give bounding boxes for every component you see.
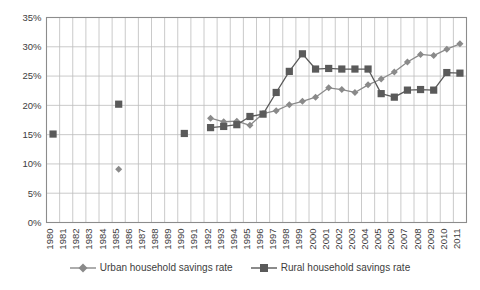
x-tick-label: 2006 — [385, 229, 396, 250]
x-tick-label: 1999 — [293, 229, 304, 250]
data-point-square — [312, 65, 319, 72]
x-tick-label: 2001 — [320, 229, 331, 250]
data-point-square — [299, 50, 306, 57]
data-point-square — [286, 68, 293, 75]
diamond-marker-icon — [70, 262, 96, 274]
y-tick-label: 30% — [22, 41, 42, 52]
data-point-square — [115, 101, 122, 108]
data-point-square — [49, 130, 56, 137]
data-point-diamond — [351, 89, 358, 96]
data-point-square — [417, 86, 424, 93]
data-point-square — [181, 130, 188, 137]
x-tick-label: 1992 — [202, 229, 213, 250]
data-point-diamond — [365, 81, 372, 88]
x-tick-label: 1987 — [136, 229, 147, 250]
x-tick-label: 1991 — [188, 229, 199, 250]
data-point-diamond — [115, 166, 122, 173]
data-point-square — [351, 65, 358, 72]
data-point-square — [391, 94, 398, 101]
x-axis-tick-labels: 1980198119821983198419851986198719881989… — [44, 229, 462, 250]
series-urban — [115, 40, 463, 172]
legend-label-rural: Rural household savings rate — [281, 263, 411, 273]
data-point-diamond — [338, 86, 345, 93]
x-tick-label: 2011 — [451, 229, 462, 249]
x-tick-label: 1989 — [162, 229, 173, 250]
data-point-diamond — [378, 76, 385, 83]
data-point-square — [443, 69, 450, 76]
data-point-diamond — [207, 115, 214, 122]
y-tick-label: 0% — [28, 217, 42, 228]
x-tick-label: 1993 — [215, 229, 226, 250]
legend-item-rural: Rural household savings rate — [251, 262, 411, 274]
y-tick-label: 15% — [22, 129, 42, 140]
chart-plot-area: 0%5%10%15%20%25%30%35% 19801981198219831… — [0, 0, 480, 290]
y-axis-tick-labels: 0%5%10%15%20%25%30%35% — [22, 12, 42, 228]
legend-label-urban: Urban household savings rate — [100, 263, 233, 273]
y-tick-label: 5% — [28, 188, 42, 199]
y-tick-label: 25% — [22, 70, 42, 81]
data-point-square — [378, 90, 385, 97]
x-tick-label: 1985 — [110, 229, 121, 250]
data-point-diamond — [273, 107, 280, 114]
data-point-square — [246, 113, 253, 120]
x-tick-label: 2007 — [398, 229, 409, 250]
y-tick-label: 20% — [22, 100, 42, 111]
data-point-diamond — [299, 98, 306, 105]
data-point-square — [207, 124, 214, 131]
data-point-square — [364, 65, 371, 72]
x-tick-label: 2008 — [412, 229, 423, 250]
x-tick-label: 1982 — [70, 229, 81, 250]
data-point-square — [456, 70, 463, 77]
y-tick-label: 10% — [22, 158, 42, 169]
chart-legend: Urban household savings rate Rural house… — [0, 262, 480, 274]
data-point-square — [273, 89, 280, 96]
data-point-square — [233, 121, 240, 128]
legend-item-urban: Urban household savings rate — [70, 262, 233, 274]
data-point-square — [404, 87, 411, 94]
x-tick-label: 2002 — [333, 229, 344, 250]
savings-rate-chart: 0%5%10%15%20%25%30%35% 19801981198219831… — [0, 0, 480, 290]
data-point-diamond — [417, 51, 424, 58]
x-tick-label: 1995 — [241, 229, 252, 250]
data-point-square — [220, 123, 227, 130]
x-tick-label: 1983 — [83, 229, 94, 250]
x-tick-label: 2010 — [438, 229, 449, 250]
x-tick-label: 2004 — [359, 229, 370, 250]
x-tick-label: 1984 — [97, 229, 108, 250]
data-point-square — [259, 111, 266, 118]
x-tick-label: 1988 — [149, 229, 160, 250]
x-tick-label: 2000 — [307, 229, 318, 250]
x-tick-label: 1998 — [280, 229, 291, 250]
x-tick-label: 1997 — [267, 229, 278, 250]
x-tick-label: 1994 — [228, 229, 239, 250]
data-point-diamond — [456, 40, 463, 47]
x-tick-label: 1996 — [254, 229, 265, 250]
data-point-diamond — [430, 52, 437, 59]
data-point-diamond — [286, 101, 293, 108]
x-tick-label: 1981 — [57, 229, 68, 250]
x-tick-label: 2003 — [346, 229, 357, 250]
x-tick-label: 1980 — [44, 229, 55, 250]
y-tick-label: 35% — [22, 12, 42, 23]
data-point-square — [325, 65, 332, 72]
x-tick-label: 1986 — [123, 229, 134, 250]
x-tick-label: 1990 — [175, 229, 186, 250]
data-point-square — [430, 87, 437, 94]
square-marker-icon — [251, 262, 277, 274]
data-point-square — [338, 65, 345, 72]
x-tick-label: 2005 — [372, 229, 383, 250]
x-tick-label: 2009 — [425, 229, 436, 250]
